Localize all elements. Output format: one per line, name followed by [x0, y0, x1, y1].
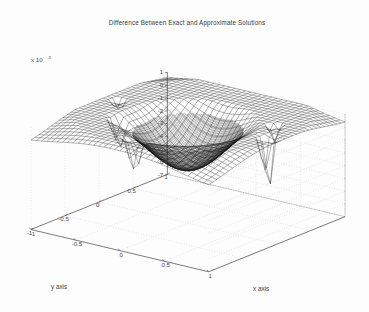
z-exponent-label: x 10 [31, 56, 43, 63]
x-tick-label: 0.5 [162, 261, 171, 268]
z-tick-label: -6 [158, 158, 164, 165]
surface-plot-canvas: Difference Between Exact and Approximate… [0, 0, 369, 312]
z-tick-label: -4 [158, 132, 164, 139]
y-tick-label: -0.5 [58, 215, 69, 222]
matlab-figure-window: Difference Between Exact and Approximate… [0, 0, 369, 312]
z-tick-label: 1 [160, 68, 164, 75]
z-tick-label: -2 [158, 107, 164, 114]
z-tick-label: -3 [158, 119, 164, 126]
y-axis-label: y axis [51, 283, 67, 291]
y-tick-label: 1 [164, 173, 168, 180]
z-tick-label: -5 [158, 145, 164, 152]
z-tick-label: -7 [158, 171, 164, 178]
plot-title: Difference Between Exact and Approximate… [109, 19, 266, 27]
y-tick-label: 0.5 [127, 187, 136, 194]
x-axis-label: x axis [253, 285, 269, 292]
x-tick-label: -0.5 [72, 240, 83, 247]
z-tick-label: -1 [158, 94, 164, 101]
z-tick-label: 0 [160, 81, 164, 88]
x-tick-label: -1 [30, 230, 36, 237]
